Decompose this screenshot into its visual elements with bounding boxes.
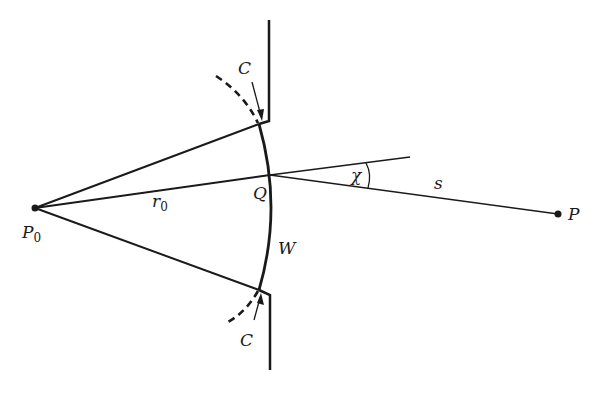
label-distance: s: [434, 173, 443, 193]
arrow-top-head: [257, 109, 264, 121]
label-angle-chi: χ: [350, 165, 363, 185]
label-wavefront: W: [278, 238, 297, 258]
screen-top-wall: [259, 20, 269, 124]
ray-to-top-edge: [35, 124, 259, 208]
ray-extension: [270, 157, 410, 175]
contour-dashed-bottom: [228, 291, 258, 322]
label-source-point: P0: [21, 222, 41, 245]
diffraction-diagram: C C P0 r0 Q χ s P W: [0, 0, 599, 396]
label-aperture-point: Q: [253, 183, 267, 203]
ray-to-bottom-edge: [35, 208, 259, 290]
label-observation-point: P: [567, 204, 580, 224]
arrow-bottom-head: [257, 293, 264, 305]
label-contour-top: C: [238, 58, 251, 78]
source-point-dot: [32, 205, 39, 212]
wavefront-arc: [259, 124, 271, 290]
angle-chi-arc: [366, 163, 370, 188]
label-radius: r0: [152, 191, 168, 214]
line-s: [270, 175, 558, 214]
observation-point-dot: [555, 211, 562, 218]
label-contour-bottom: C: [240, 330, 253, 350]
